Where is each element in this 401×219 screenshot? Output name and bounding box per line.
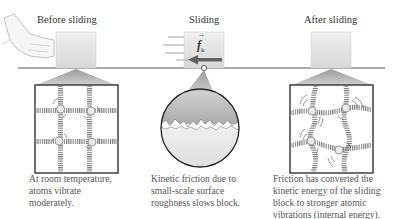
panel-title-after: After sliding (304, 14, 357, 25)
panel-title-before: Before sliding (37, 14, 97, 25)
atom-lattice-before (35, 85, 118, 173)
block-after (311, 32, 351, 68)
block-before (56, 32, 96, 68)
panel-title-sliding: Sliding (189, 14, 219, 25)
surface-roughness-magnifier (160, 88, 240, 170)
contact-point-icon (201, 65, 206, 70)
caption-before: At room temperature, atoms vibrate moder… (29, 173, 112, 209)
caption-sliding: Kinetic friction due to small-scale surf… (151, 173, 240, 209)
zoom-funnel-before (36, 69, 116, 85)
caption-after: Friction has converted the kinetic energ… (273, 173, 380, 219)
friction-force-label: →fk (197, 38, 205, 54)
vector-arrow-icon: → (197, 30, 205, 39)
zoom-funnel-after (292, 69, 372, 85)
atom-lattice-after (290, 85, 373, 173)
